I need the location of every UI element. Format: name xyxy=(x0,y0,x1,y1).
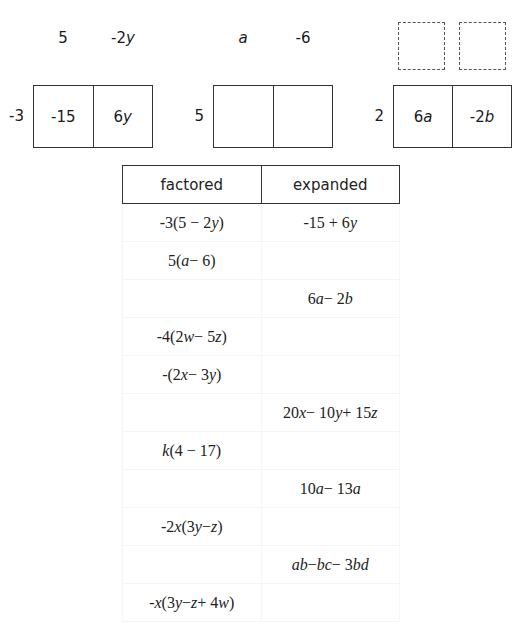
header-factored: factored xyxy=(123,166,261,203)
table-row: -(2x − 3y) xyxy=(122,356,400,394)
cell-expanded: 6a − 2b xyxy=(261,280,400,317)
table-row: 5(a − 6) xyxy=(122,242,400,280)
column-factor-2-text: -2y xyxy=(111,29,135,47)
table-header: factored expanded xyxy=(122,165,400,204)
product-cell-2: -2b xyxy=(452,86,511,147)
header-expanded: expanded xyxy=(261,166,400,203)
cell-expanded[interactable] xyxy=(261,584,400,621)
cell-factored[interactable] xyxy=(123,394,261,431)
cell-factored: 5(a − 6) xyxy=(123,242,261,279)
cell-expanded[interactable] xyxy=(261,242,400,279)
table-row: ab − bc − 3bd xyxy=(122,546,400,584)
table-row: 10a − 13a xyxy=(122,470,400,508)
row-factor: 5 xyxy=(180,106,204,126)
table-row: -3(5 − 2y)-15 + 6y xyxy=(122,204,400,242)
product-cell-1: 6a xyxy=(394,86,452,147)
area-model-3: 2 6a -2b xyxy=(360,0,525,150)
cell-factored: -2x(3y − z) xyxy=(123,508,261,545)
column-factor-1: 5 xyxy=(33,28,93,48)
cell-expanded[interactable] xyxy=(261,318,400,355)
column-factor-2: -6 xyxy=(273,28,333,48)
area-grid xyxy=(213,85,333,148)
area-grid: -15 6y xyxy=(33,85,153,148)
cell-factored: -4(2w − 5z) xyxy=(123,318,261,355)
table-row: k(4 − 17) xyxy=(122,432,400,470)
cell-expanded: -15 + 6y xyxy=(261,204,400,241)
blank-factor-box-2[interactable] xyxy=(459,22,506,70)
cell-expanded: ab − bc − 3bd xyxy=(261,546,400,583)
product-cell-1: -15 xyxy=(34,86,93,147)
cell-expanded[interactable] xyxy=(261,356,400,393)
area-model-1: 5 -2y -3 -15 6y xyxy=(0,0,160,150)
blank-factor-box-1[interactable] xyxy=(398,22,445,70)
column-factor-2: -2y xyxy=(93,28,153,48)
cell-expanded[interactable] xyxy=(261,508,400,545)
factored-expanded-table: factored expanded -3(5 − 2y)-15 + 6y5(a … xyxy=(122,165,400,622)
cell-expanded: 20x − 10y + 15z xyxy=(261,394,400,431)
cell-factored: -3(5 − 2y) xyxy=(123,204,261,241)
table-row: 6a − 2b xyxy=(122,280,400,318)
cell-expanded: 10a − 13a xyxy=(261,470,400,507)
area-grid: 6a -2b xyxy=(393,85,512,148)
table-row: -4(2w − 5z) xyxy=(122,318,400,356)
cell-factored[interactable] xyxy=(123,546,261,583)
column-factor-1: a xyxy=(213,28,273,48)
row-factor: 2 xyxy=(360,106,384,126)
cell-factored[interactable] xyxy=(123,280,261,317)
area-model-2: a -6 5 xyxy=(180,0,340,150)
cell-factored[interactable] xyxy=(123,470,261,507)
row-factor: -3 xyxy=(0,106,24,126)
cell-expanded[interactable] xyxy=(261,432,400,469)
cell-factored: -x(3y − z + 4w) xyxy=(123,584,261,621)
cell-factored: -(2x − 3y) xyxy=(123,356,261,393)
table-row: 20x − 10y + 15z xyxy=(122,394,400,432)
product-cell-1-empty[interactable] xyxy=(214,86,273,147)
table-body: -3(5 − 2y)-15 + 6y5(a − 6)6a − 2b-4(2w −… xyxy=(122,204,400,622)
table-row: -x(3y − z + 4w) xyxy=(122,584,400,622)
table-row: -2x(3y − z) xyxy=(122,508,400,546)
product-cell-2-empty[interactable] xyxy=(273,86,333,147)
product-cell-2: 6y xyxy=(93,86,153,147)
cell-factored: k(4 − 17) xyxy=(123,432,261,469)
